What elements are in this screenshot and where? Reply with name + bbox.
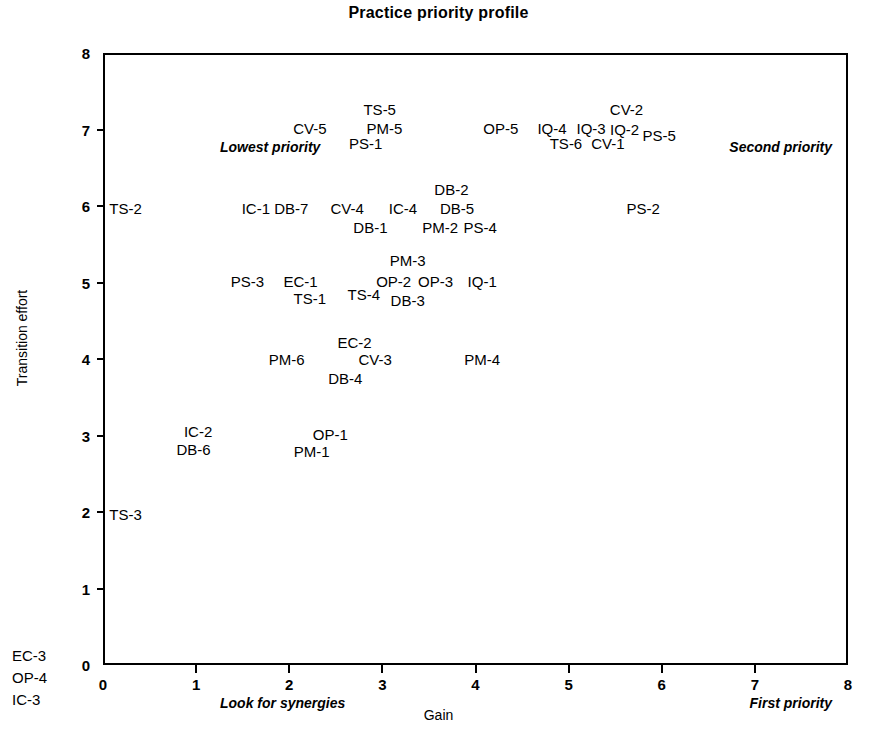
plot-area: Lowest priority Second priority Look for… (103, 53, 848, 665)
data-point-label: PM-5 (366, 120, 402, 135)
data-point-label: TS-4 (348, 286, 381, 301)
x-axis-tick (475, 665, 477, 673)
offscale-label-list: EC-3 OP-4 IC-3 (12, 645, 90, 710)
data-point-label: IQ-1 (468, 273, 497, 288)
data-point-label: TS-3 (109, 507, 142, 522)
x-axis-tick-label: 0 (88, 677, 118, 692)
data-point-label: OP-2 (376, 273, 411, 288)
y-axis-label: Transition effort (14, 258, 30, 418)
y-axis-tick (97, 511, 105, 513)
x-axis-tick-label: 7 (740, 677, 770, 692)
x-axis-tick (381, 665, 383, 673)
data-point-label: CV-1 (591, 135, 624, 150)
data-point-label: IC-1 (242, 201, 270, 216)
data-point-label: PS-5 (642, 128, 675, 143)
data-point-label: PS-2 (627, 201, 660, 216)
data-point-label: OP-5 (483, 120, 518, 135)
quadrant-note-second-priority: Second priority (729, 139, 832, 155)
data-point-label: DB-4 (328, 370, 362, 385)
data-point-label: PS-3 (231, 273, 264, 288)
y-axis-tick-label: 2 (60, 505, 90, 520)
data-point-label: TS-1 (294, 291, 327, 306)
x-axis-tick-label: 8 (833, 677, 863, 692)
data-point-label: OP-3 (418, 273, 453, 288)
data-point-label: IC-2 (184, 424, 212, 439)
y-axis-tick-label: 1 (60, 582, 90, 597)
data-point-label: DB-5 (440, 201, 474, 216)
quadrant-note-lowest-priority: Lowest priority (220, 139, 320, 155)
y-axis-tick (97, 435, 105, 437)
y-axis-tick-label: 5 (60, 276, 90, 291)
data-point-label: PM-3 (390, 253, 426, 268)
data-point-label: DB-6 (176, 441, 210, 456)
y-axis-tick-label: 6 (60, 199, 90, 214)
y-axis-tick (97, 358, 105, 360)
data-point-label: DB-1 (353, 220, 387, 235)
y-axis-tick (97, 129, 105, 131)
x-axis-tick (195, 665, 197, 673)
x-axis-tick-label: 5 (554, 677, 584, 692)
y-axis-tick (97, 205, 105, 207)
data-point-label: IQ-3 (577, 120, 606, 135)
x-axis-tick-label: 6 (647, 677, 677, 692)
quadrant-note-look-for-synergies: Look for synergies (220, 695, 345, 711)
y-axis-tick (97, 282, 105, 284)
data-point-label: PM-4 (464, 351, 500, 366)
data-point-label: OP-1 (313, 426, 348, 441)
offscale-label: IC-3 (12, 689, 90, 711)
y-axis-tick-label: 8 (60, 46, 90, 61)
data-point-label: PM-1 (294, 443, 330, 458)
data-point-label: TS-6 (550, 135, 583, 150)
data-point-label: CV-3 (358, 351, 391, 366)
data-point-label: PM-6 (269, 351, 305, 366)
data-point-label: PS-1 (349, 135, 382, 150)
y-axis-tick-label: 4 (60, 352, 90, 367)
data-point-label: EC-1 (283, 273, 317, 288)
data-point-label: PM-2 (422, 220, 458, 235)
x-axis-tick (568, 665, 570, 673)
x-axis-tick (288, 665, 290, 673)
data-point-label: TS-5 (363, 101, 396, 116)
x-axis-tick-label: 1 (181, 677, 211, 692)
data-point-label: DB-2 (434, 181, 468, 196)
chart-title: Practice priority profile (0, 4, 877, 22)
x-axis-tick (754, 665, 756, 673)
y-axis-tick-label: 7 (60, 123, 90, 138)
x-axis-tick-label: 2 (274, 677, 304, 692)
data-point-label: CV-5 (293, 120, 326, 135)
data-point-label: IC-4 (389, 201, 417, 216)
quadrant-note-first-priority: First priority (750, 695, 832, 711)
y-axis-tick-label: 3 (60, 429, 90, 444)
practice-priority-profile-chart: Practice priority profile Transition eff… (0, 0, 877, 749)
data-point-label: IQ-4 (537, 120, 566, 135)
x-axis-tick (661, 665, 663, 673)
x-axis-tick-label: 4 (461, 677, 491, 692)
data-point-label: CV-2 (610, 101, 643, 116)
data-point-label: DB-3 (391, 292, 425, 307)
y-axis-tick (97, 588, 105, 590)
data-point-label: CV-4 (330, 201, 363, 216)
data-point-label: EC-2 (337, 334, 371, 349)
x-axis-label: Gain (0, 707, 877, 723)
x-axis-tick-label: 3 (367, 677, 397, 692)
y-axis-tick-label: 0 (60, 658, 90, 673)
data-point-label: PS-4 (464, 220, 497, 235)
data-point-label: TS-2 (109, 201, 142, 216)
data-point-label: DB-7 (274, 201, 308, 216)
